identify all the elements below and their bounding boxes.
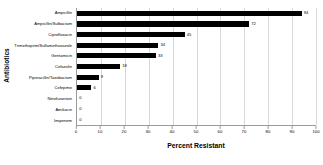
x-axis-tick-label: 70 [242, 130, 247, 134]
category-label: Ampicillin/Sulbactam [12, 19, 74, 30]
x-axis-ticks: 0102030405060708090100 [76, 126, 316, 138]
category-label: Gentamicin [12, 51, 74, 62]
x-axis-tick-label: 100 [312, 130, 319, 134]
x-axis-tick: 90 [290, 126, 295, 134]
x-axis-tick: 30 [146, 126, 151, 134]
bar-value-label: 0 [79, 107, 81, 111]
bar-row: 45 [77, 29, 316, 40]
bar [77, 75, 99, 80]
bar-value-label: 0 [79, 96, 81, 100]
bar-row: 94 [77, 8, 316, 19]
x-axis-title: Percent Resistant [76, 142, 316, 149]
x-axis-tick-label: 40 [170, 130, 175, 134]
bar-value-label: 9 [101, 75, 103, 79]
bar-value-label: 0 [79, 118, 81, 122]
bar-value-label: 45 [187, 33, 192, 37]
bar [77, 85, 91, 90]
x-axis-tick: 70 [242, 126, 247, 134]
bar-row: 0 [77, 104, 316, 115]
gridline [316, 8, 317, 125]
x-axis-tick: 0 [75, 126, 77, 134]
x-axis-tick: 20 [122, 126, 127, 134]
category-label: Piperacillin/Tazobactam [12, 72, 74, 83]
x-axis-tick: 80 [266, 126, 271, 134]
x-axis-tick-label: 90 [290, 130, 295, 134]
bar-value-label: 6 [94, 86, 96, 90]
category-label: Cefazolin [12, 62, 74, 73]
bar-value-label: 94 [304, 11, 309, 15]
bar-row: 0 [77, 93, 316, 104]
x-axis-tick: 40 [170, 126, 175, 134]
bar-row: 18 [77, 61, 316, 72]
x-axis-tick: 50 [194, 126, 199, 134]
bar [77, 43, 158, 48]
category-label: Ciprofloxacin [12, 29, 74, 40]
category-axis-labels: AmpicillinAmpicillin/SulbactamCiprofloxa… [12, 8, 74, 126]
x-axis-tick-label: 30 [146, 130, 151, 134]
bar-chart: Antibiotics AmpicillinAmpicillin/Sulbact… [0, 0, 323, 165]
category-label: Ampicillin [12, 8, 74, 19]
bar [77, 21, 249, 26]
x-axis-tick: 100 [312, 126, 319, 134]
plot-area: 94724534331896000 [76, 8, 316, 126]
category-label: Nitrofurantoin [12, 94, 74, 105]
x-axis-tick: 60 [218, 126, 223, 134]
x-axis-tick-label: 10 [98, 130, 103, 134]
x-axis-tick-label: 0 [75, 130, 77, 134]
x-axis-tick-label: 60 [218, 130, 223, 134]
bar-row: 72 [77, 19, 316, 30]
y-axis-title: Antibiotics [0, 0, 12, 130]
category-label: Trimethoprim/Sulfamethoxazole [12, 40, 74, 51]
bar [77, 53, 156, 58]
x-axis-tick-label: 50 [194, 130, 199, 134]
y-axis-title-text: Antibiotics [3, 48, 10, 83]
bar-row: 9 [77, 72, 316, 83]
bar [77, 32, 185, 37]
bar-series: 94724534331896000 [77, 8, 316, 125]
bar-value-label: 33 [158, 54, 163, 58]
bar-value-label: 18 [122, 64, 127, 68]
bar-row: 6 [77, 82, 316, 93]
bar [77, 64, 120, 69]
bar-value-label: 34 [160, 43, 165, 47]
bar [77, 11, 302, 16]
bar-value-label: 72 [251, 22, 256, 26]
x-axis-tick: 10 [98, 126, 103, 134]
x-axis-tick-label: 80 [266, 130, 271, 134]
category-label: Imipenem [12, 115, 74, 126]
bar-row: 34 [77, 40, 316, 51]
bar-row: 33 [77, 51, 316, 62]
bar-row: 0 [77, 114, 316, 125]
category-label: Amikacin [12, 105, 74, 116]
category-label: Cefepime [12, 83, 74, 94]
x-axis-tick-label: 20 [122, 130, 127, 134]
